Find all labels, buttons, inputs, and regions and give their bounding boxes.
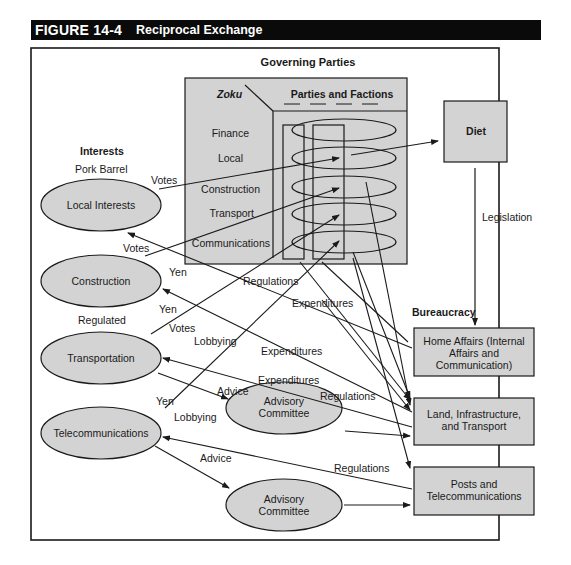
edge-label-expenditures-transport: Expenditures [258, 374, 319, 386]
reciprocal-exchange-diagram: Governing Parties Zoku Parties and Facti… [0, 0, 571, 565]
edge-label-yen-transport: Yen [159, 303, 177, 315]
svg-text:Transportation: Transportation [67, 352, 134, 364]
row-transport: Transport [209, 207, 254, 219]
svg-text:Committee: Committee [259, 505, 310, 517]
parties-factions-label: Parties and Factions [291, 88, 394, 100]
edge-label-yen-telecom: Yen [156, 395, 174, 407]
regulated-label: Regulated [78, 314, 126, 326]
node-local-interests: Local Interests [41, 179, 161, 231]
row-finance: Finance [212, 127, 250, 139]
edge-label-regulations-telecom: Regulations [334, 462, 389, 474]
edge-label-advice-2: Advice [200, 452, 232, 464]
diet-box: Diet [444, 101, 507, 162]
legislation-label: Legislation [482, 211, 532, 223]
zoku-label: Zoku [216, 88, 243, 100]
interests-heading: Interests [80, 145, 124, 157]
svg-text:Construction: Construction [72, 275, 131, 287]
edge-label-votes-local: Votes [151, 174, 177, 186]
svg-text:Home Affairs (Internal: Home Affairs (Internal [423, 335, 524, 347]
advisory-committee-2: Advisory Committee [226, 479, 342, 531]
row-construction: Construction [201, 183, 260, 195]
edge-label-expenditures-home: Expenditures [292, 297, 353, 309]
governing-parties-heading: Governing Parties [261, 56, 356, 68]
node-telecommunications: Telecommunications [41, 407, 161, 459]
svg-text:Local Interests: Local Interests [67, 199, 135, 211]
svg-text:Committee: Committee [259, 407, 310, 419]
edge-label-lobbying-telecom: Lobbying [174, 411, 217, 423]
edge-label-regulations-local: Regulations [243, 275, 298, 287]
edge-label-lobbying-transport: Lobbying [194, 335, 237, 347]
pork-barrel-label: Pork Barrel [75, 163, 128, 175]
node-transportation: Transportation [41, 332, 161, 384]
row-local: Local [218, 152, 243, 164]
svg-text:Advisory: Advisory [264, 493, 305, 505]
svg-text:Land, Infrastructure,: Land, Infrastructure, [427, 408, 521, 420]
ministry-posts-telecom: Posts and Telecommunications [414, 467, 534, 515]
svg-text:Posts and: Posts and [451, 478, 498, 490]
edge-label-yen-construction: Yen [169, 266, 187, 278]
svg-text:Advisory: Advisory [264, 395, 305, 407]
bureaucracy-heading: Bureaucracy [412, 306, 476, 318]
svg-text:and Transport: and Transport [442, 420, 507, 432]
svg-text:Communication): Communication) [436, 359, 512, 371]
svg-text:Affairs and: Affairs and [449, 347, 499, 359]
edge-label-expenditures-construction: Expenditures [261, 345, 322, 357]
diet-label: Diet [466, 125, 486, 137]
edge-label-votes-transport: Votes [169, 322, 195, 334]
ministry-land-infrastructure-transport: Land, Infrastructure, and Transport [414, 398, 534, 445]
ministry-home-affairs: Home Affairs (Internal Affairs and Commu… [414, 328, 534, 376]
edge-label-advice-1: Advice [217, 385, 249, 397]
row-communications: Communications [192, 237, 270, 249]
edge-label-votes-construction: Votes [123, 242, 149, 254]
svg-text:Telecommunications: Telecommunications [426, 490, 521, 502]
governing-parties-box: Zoku Parties and Factions Finance Local … [185, 78, 407, 264]
node-construction: Construction [41, 255, 161, 307]
svg-text:Telecommunications: Telecommunications [53, 427, 148, 439]
edge-label-regulations-transport: Regulations [320, 390, 375, 402]
